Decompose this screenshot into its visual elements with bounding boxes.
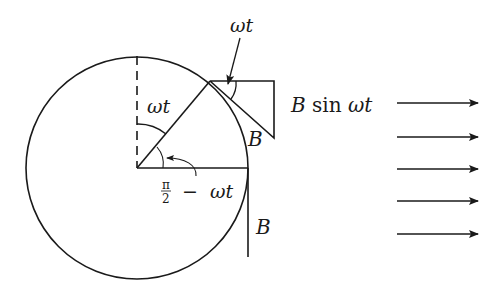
complement-pointer-arrow — [167, 158, 196, 176]
field-component-triangle — [210, 81, 274, 138]
label-two: 2 — [162, 192, 170, 206]
angle-arc-complement — [157, 147, 163, 168]
label-b-tangent: B — [247, 127, 263, 151]
label-b-sin-b: B — [290, 93, 306, 117]
label-pi: π — [162, 178, 170, 192]
uniform-field-arrows — [397, 103, 478, 234]
label-omega-t-top: ωt — [230, 14, 253, 36]
label-b-vertical: B — [255, 215, 271, 239]
label-b-sin-wt: ωt — [348, 93, 373, 117]
angle-arc-omega-t — [137, 124, 166, 134]
label-minus-omega-t: − ωt — [182, 180, 233, 202]
label-b-sin-sin: sin — [306, 93, 348, 117]
triangle-angle-arc — [231, 81, 236, 99]
rotating-coil-field-diagram: ωt ωt π 2 − ωt B B B sin ωt — [0, 0, 503, 292]
label-omega-t-inner: ωt — [147, 95, 170, 117]
label-b-sin-omega-t: B sin ωt — [290, 93, 373, 117]
omega-t-pointer-arrow — [228, 38, 240, 84]
